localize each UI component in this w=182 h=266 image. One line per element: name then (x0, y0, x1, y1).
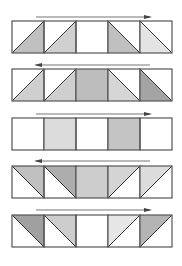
diagram-canvas (0, 0, 182, 266)
cell-border (76, 118, 108, 150)
shaded-square (44, 118, 76, 150)
arrow-right-icon (144, 208, 152, 212)
cell-border (76, 215, 108, 247)
cell-border (140, 118, 172, 150)
cell-border (76, 21, 108, 53)
cell-border (12, 118, 44, 150)
shaded-square (76, 69, 108, 101)
arrow-left-icon (34, 63, 42, 67)
shaded-square (76, 166, 108, 198)
shaded-square (108, 118, 140, 150)
quilt-strip-diagram (0, 0, 182, 266)
arrow-right-icon (144, 112, 152, 116)
arrow-right-icon (144, 15, 152, 19)
arrow-left-icon (34, 159, 42, 163)
